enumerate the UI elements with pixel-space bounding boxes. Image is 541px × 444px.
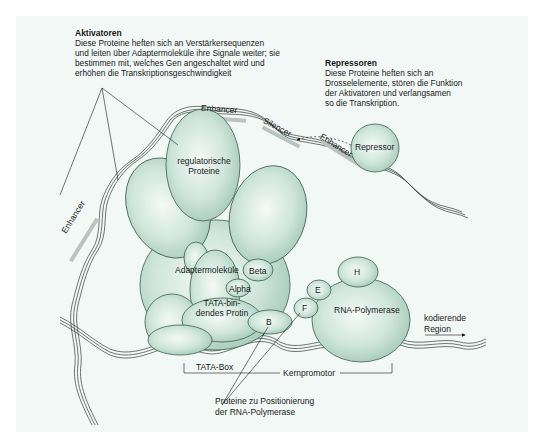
alpha-label: Alpha [229, 284, 251, 294]
repressors-line-2: Drosselelemente, stören die Funktion [325, 78, 525, 88]
f-label: F [302, 303, 307, 313]
beta-label: Beta [249, 266, 267, 276]
tata-box-label: TATA-Box [196, 362, 233, 372]
regulatory-proteins-label: regulatorische Proteine [172, 156, 236, 176]
repressors-block: Repressoren Diese Proteine heften sich a… [325, 58, 525, 108]
repressor-label: Repressor [355, 142, 394, 152]
core-promoter-label: Kernpromotor [283, 368, 335, 378]
repressors-line-1: Diese Proteine heften sich an [325, 68, 525, 78]
adapter-molecules-label: Adaptermoleküle [175, 265, 239, 275]
activators-line-4: erhöhen die Transkriptionsgeschwindigkei… [75, 68, 325, 78]
activators-title: Aktivatoren [75, 28, 325, 38]
activators-line-3: bestimmen mit, welches Gen angeschaltet … [75, 58, 325, 68]
activators-line-2: und leiten über Adaptermoleküle ihre Sig… [75, 48, 325, 58]
b-label: B [266, 317, 272, 327]
h-label: H [354, 267, 360, 277]
activators-block: Aktivatoren Diese Proteine heften sich a… [75, 28, 325, 78]
tata-binding-protein-label: TATA-bin- dendes Protin [192, 298, 252, 318]
repressors-line-3: der Aktivatoren und verlangsamen [325, 88, 525, 98]
lower-left-shape [148, 325, 212, 355]
rna-polymerase-label: RNA-Polymerase [334, 305, 400, 315]
activators-line-1: Diese Proteine heften sich an Verstärker… [75, 38, 325, 48]
positioning-proteins-label: Proteine zu Positionierung der RNA-Polym… [215, 396, 314, 418]
repressors-title: Repressoren [325, 58, 525, 68]
coding-region-label: kodierende Region [424, 313, 466, 335]
e-label: E [315, 285, 321, 295]
repressors-line-4: so die Transkription. [325, 98, 525, 108]
